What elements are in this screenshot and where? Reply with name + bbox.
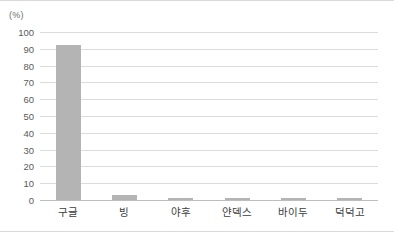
bar-slot xyxy=(209,32,265,200)
bar-slot xyxy=(96,32,152,200)
y-axis-tick-label: 90 xyxy=(23,43,34,54)
x-axis-category-label: 빙 xyxy=(96,204,152,219)
bar-series xyxy=(40,32,378,200)
y-axis-tick-label: 70 xyxy=(23,77,34,88)
x-axis-category-label: 야후 xyxy=(153,204,209,219)
y-axis-tick-label: 40 xyxy=(23,127,34,138)
y-axis-tick-label: 50 xyxy=(23,111,34,122)
y-axis-tick-label: 20 xyxy=(23,161,34,172)
bar xyxy=(225,198,250,200)
y-axis-tick-label: 30 xyxy=(23,144,34,155)
bar-slot xyxy=(265,32,321,200)
bar xyxy=(56,45,81,200)
bar-slot xyxy=(40,32,96,200)
y-axis-tick-label: 80 xyxy=(23,60,34,71)
bar-chart: (%) 1009080706050403020100 구글빙야후얀덱스바이두덕덕… xyxy=(0,0,394,232)
x-axis-category-label: 바이두 xyxy=(265,204,321,219)
gridline xyxy=(40,200,378,201)
y-axis-tick-label: 100 xyxy=(18,27,34,38)
x-axis-category-label: 덕덕고 xyxy=(322,204,378,219)
plot-area: 1009080706050403020100 xyxy=(40,32,378,200)
x-axis-category-label: 얀덱스 xyxy=(209,204,265,219)
bar-slot xyxy=(322,32,378,200)
bar xyxy=(112,195,137,200)
y-axis-tick-label: 60 xyxy=(23,94,34,105)
bar xyxy=(337,198,362,200)
bar xyxy=(281,198,306,200)
bar-slot xyxy=(153,32,209,200)
bar xyxy=(168,198,193,200)
x-axis-category-labels: 구글빙야후얀덱스바이두덕덕고 xyxy=(40,204,378,219)
y-axis-unit-label: (%) xyxy=(9,10,24,20)
x-axis-category-label: 구글 xyxy=(40,204,96,219)
y-axis-tick-label: 10 xyxy=(23,178,34,189)
y-axis-tick-label: 0 xyxy=(29,195,34,206)
